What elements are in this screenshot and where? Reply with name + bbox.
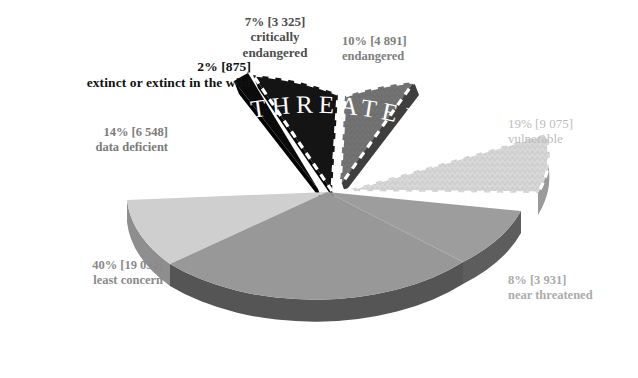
- label-critically-endangered-name-line2: endangered: [215, 45, 335, 60]
- label-least-concern-value: 40% [19 032]: [0, 258, 163, 273]
- label-vulnerable-value: 19% [9 075]: [508, 116, 636, 131]
- label-vulnerable-name: vulnerable: [508, 131, 636, 146]
- label-vulnerable: 19% [9 075] vulnerable: [508, 116, 636, 147]
- label-critically-endangered: 7% [3 325] critically endangered: [215, 14, 335, 60]
- label-data-deficient-value: 14% [6 548]: [0, 125, 168, 140]
- label-least-concern-name: least concern: [0, 273, 163, 288]
- label-near-threatened-value: 8% [3 931]: [508, 273, 638, 288]
- label-endangered-value: 10% [4 891]: [342, 34, 482, 49]
- label-near-threatened-name: near threatened: [508, 288, 638, 303]
- pie-chart-figure: THREATENED 7% [3 325] critically endange…: [0, 0, 638, 378]
- label-extinct: 2% [875] extinct or extinct in the wild: [0, 59, 251, 91]
- label-near-threatened: 8% [3 931] near threatened: [508, 273, 638, 303]
- label-extinct-name: extinct or extinct in the wild: [0, 75, 251, 91]
- label-extinct-value: 2% [875]: [0, 59, 251, 75]
- label-critically-endangered-name-line1: critically: [215, 29, 335, 44]
- label-data-deficient-name: data deficient: [0, 140, 168, 155]
- label-data-deficient: 14% [6 548] data deficient: [0, 125, 168, 155]
- label-least-concern: 40% [19 032] least concern: [0, 258, 163, 288]
- label-critically-endangered-value: 7% [3 325]: [215, 14, 335, 29]
- label-endangered-name: endangered: [342, 49, 482, 64]
- label-endangered: 10% [4 891] endangered: [342, 34, 482, 64]
